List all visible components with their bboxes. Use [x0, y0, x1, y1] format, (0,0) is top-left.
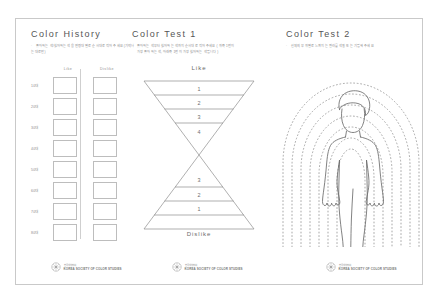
cell-dislike-input[interactable] — [93, 98, 117, 115]
cell-dislike-input[interactable] — [93, 182, 117, 199]
color-history-table: Like Dislike 10대 20대 30대 — [31, 67, 135, 76]
worksheet-sheet: Color History ·좋아하는 색/싫어하는 색을 연령대 별로 순서대… — [15, 18, 423, 285]
hourglass-level-bottom-1: 1 — [198, 206, 201, 212]
description-text: 좋아하는 색/싫어하는 색을 연령대 별로 순서대로 적어 주세요 (기억나는 … — [31, 44, 134, 54]
hourglass-label-dislike: Dislike — [130, 231, 268, 237]
row-label: 10대 — [31, 83, 47, 88]
cell-like-input[interactable] — [53, 140, 77, 157]
description-text: 신체의 부위별로 느껴지는 컬러를 색칠 또는 기입해 주세요 — [291, 44, 374, 48]
panel-container: Color History ·좋아하는 색/싫어하는 색을 연령대 별로 순서대… — [16, 19, 422, 284]
society-emblem-icon — [51, 262, 61, 272]
footer-logo-test-1: 한국색채학회 KOREA SOCIETY OF COLOR STUDIES — [172, 262, 243, 272]
cell-like-input[interactable] — [53, 161, 77, 178]
table-row: 30대 — [31, 118, 135, 139]
table-row: 40대 — [31, 139, 135, 160]
aura-body-diagram — [280, 57, 422, 247]
row-label: 30대 — [31, 125, 47, 130]
hourglass-level-top-4: 4 — [198, 129, 201, 135]
cell-like-input[interactable] — [53, 98, 77, 115]
hourglass-level-bottom-3: 3 — [198, 177, 201, 183]
table-row: 20대 — [31, 97, 135, 118]
cell-dislike-input[interactable] — [93, 161, 117, 178]
cell-dislike-input[interactable] — [93, 140, 117, 157]
logo-line-1: 한국색채학회 — [185, 263, 243, 267]
column-divider — [80, 69, 81, 239]
logo-line-1: 한국색채학회 — [339, 263, 397, 267]
logo-line-2: KOREA SOCIETY OF COLOR STUDIES — [64, 267, 122, 271]
panel-color-test-1: Color Test 1 ·좋아하는 색부터 싫어하는 색까지 순서대로 적어 … — [124, 19, 274, 284]
hourglass-level-top-2: 2 — [198, 100, 201, 106]
cell-dislike-input[interactable] — [93, 224, 117, 241]
cell-like-input[interactable] — [53, 77, 77, 94]
panel-description-color-test-2: ·신체의 부위별로 느껴지는 컬러를 색칠 또는 기입해 주세요 — [286, 44, 420, 50]
row-label: 20대 — [31, 104, 47, 109]
logo-text-block: 한국색채학회 KOREA SOCIETY OF COLOR STUDIES — [64, 263, 122, 272]
table-column-headers: Like Dislike — [31, 67, 135, 76]
row-label: 50대 — [31, 167, 47, 172]
cell-like-input[interactable] — [53, 203, 77, 220]
figure-hair — [339, 91, 370, 116]
footer-logo-history: 한국색채학회 KOREA SOCIETY OF COLOR STUDIES — [51, 262, 122, 272]
cell-dislike-input[interactable] — [93, 119, 117, 136]
table-rows: 10대 20대 30대 40대 — [31, 76, 135, 244]
panel-description-color-history: ·좋아하는 색/싫어하는 색을 연령대 별로 순서대로 적어 주세요 (기억나는… — [31, 44, 135, 55]
panel-title-color-history: Color History — [31, 29, 101, 39]
table-row: 80대 — [31, 223, 135, 244]
panel-description-color-test-1: ·좋아하는 색부터 싫어하는 색까지 순서대로 적어 주세요 ( 위쪽 1번이 … — [132, 44, 268, 55]
column-header-like: Like — [55, 67, 81, 71]
logo-line-2: KOREA SOCIETY OF COLOR STUDIES — [185, 267, 243, 271]
society-emblem-icon — [326, 262, 336, 272]
table-row: 50대 — [31, 160, 135, 181]
panel-title-color-test-1: Color Test 1 — [132, 29, 197, 39]
logo-text-block: 한국색채학회 KOREA SOCIETY OF COLOR STUDIES — [185, 263, 243, 272]
figure-right-side — [361, 137, 384, 247]
column-header-dislike: Dislike — [94, 67, 120, 71]
figure-leg-split — [351, 189, 353, 247]
description-line-1: 좋아하는 색부터 싫어하는 색까지 순서대로 적어 주세요 ( 위쪽 1번이 — [137, 44, 234, 48]
footer-logo-test-2: 한국색채학회 KOREA SOCIETY OF COLOR STUDIES — [326, 262, 397, 272]
cell-dislike-input[interactable] — [93, 203, 117, 220]
description-line-2: 가장 좋아하는 색, 아래쪽 1번이 가장 싫어하는 색입니다 ) — [132, 50, 268, 56]
hourglass-level-top-3: 3 — [198, 114, 201, 120]
cell-like-input[interactable] — [53, 182, 77, 199]
figure-neck-left — [346, 131, 347, 137]
cell-dislike-input[interactable] — [93, 77, 117, 94]
table-row: 10대 — [31, 76, 135, 97]
table-row: 60대 — [31, 181, 135, 202]
society-emblem-icon — [172, 262, 182, 272]
row-label: 40대 — [31, 146, 47, 151]
aura-figure-svg — [280, 57, 422, 247]
cell-like-input[interactable] — [53, 119, 77, 136]
table-row: 70대 — [31, 202, 135, 223]
figure-head — [342, 109, 365, 133]
row-label: 70대 — [31, 209, 47, 214]
row-label: 80대 — [31, 230, 47, 235]
panel-title-color-test-2: Color Test 2 — [286, 29, 351, 39]
hourglass-level-bottom-2: 2 — [198, 192, 201, 198]
hourglass-label-like: Like — [130, 65, 268, 71]
panel-color-test-2: Color Test 2 ·신체의 부위별로 느껴지는 컬러를 색칠 또는 기입… — [278, 19, 424, 284]
logo-line-1: 한국색채학회 — [64, 263, 122, 267]
logo-text-block: 한국색채학회 KOREA SOCIETY OF COLOR STUDIES — [339, 263, 397, 272]
hourglass-level-top-1: 1 — [198, 86, 201, 92]
hourglass-diagram: Like — [130, 65, 268, 243]
row-label: 60대 — [31, 188, 47, 193]
cell-like-input[interactable] — [53, 224, 77, 241]
figure-neck-right — [360, 131, 361, 137]
figure-left-side — [323, 137, 346, 247]
hourglass-shape: 1 2 3 4 3 2 1 — [130, 79, 268, 231]
logo-line-2: KOREA SOCIETY OF COLOR STUDIES — [339, 267, 397, 271]
